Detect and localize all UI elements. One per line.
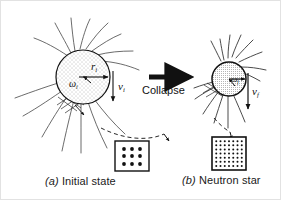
label-omega-final: ωf bbox=[231, 74, 239, 84]
callout-initial-dashed bbox=[101, 128, 164, 138]
callout-initial-arrow bbox=[164, 134, 169, 141]
label-omega-initial: ωi bbox=[69, 78, 78, 89]
collapse-label: Collapse bbox=[142, 84, 185, 96]
caption-b-text: Neutron star bbox=[196, 174, 261, 186]
final-density-box bbox=[212, 137, 246, 170]
label-velocity-final: vf bbox=[252, 85, 259, 97]
physics-figure-neutron-star-collapse: ri ωi vi ωf vf Collapse (a) Initial stat… bbox=[0, 0, 281, 200]
caption-b: (b) Neutron star bbox=[182, 174, 261, 186]
figure-artwork bbox=[1, 1, 281, 200]
caption-b-marker: (b) bbox=[182, 174, 196, 186]
caption-a-text: Initial state bbox=[59, 175, 116, 187]
initial-density-box bbox=[115, 141, 149, 171]
label-radius-initial: ri bbox=[91, 60, 97, 72]
caption-a-marker: (a) bbox=[45, 175, 59, 187]
label-velocity-initial: vi bbox=[118, 80, 125, 92]
caption-a: (a) Initial state bbox=[45, 175, 116, 187]
